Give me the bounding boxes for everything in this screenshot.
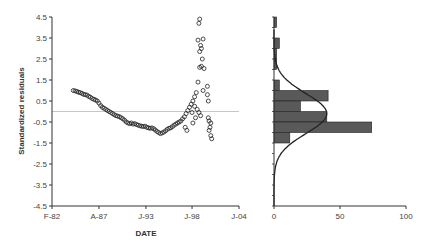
data-point [206,99,210,103]
y-tick-label: -0.5 [33,118,47,127]
histogram-bar [274,91,328,102]
y-tick-label: -4.5 [33,202,47,211]
data-point [201,89,205,93]
histogram-bars [274,17,372,143]
data-point [194,116,198,120]
data-point [202,67,206,71]
data-point [205,93,209,97]
scatter-panel: 4.53.52.51.50.5-0.5-1.5-2.5-3.5-4.5 F-82… [17,13,247,238]
histogram-bar [274,122,372,133]
data-point [196,38,200,42]
data-point [191,121,195,125]
data-point [201,37,205,41]
y-axis-title: Standardized residuals [17,67,26,155]
data-point [200,57,204,61]
x-tick-label: A-87 [91,212,108,221]
y-tick-label: 4.5 [36,13,48,22]
histogram-bar [274,101,300,112]
x-tick-label: F-82 [44,212,61,221]
data-point [196,80,200,84]
histogram-x-ticks: 050100 [272,206,413,221]
data-point [191,99,195,103]
data-point [183,125,187,129]
data-point [205,84,209,88]
data-point [193,104,197,108]
y-tick-label: 3.5 [36,34,48,43]
data-point [194,91,198,95]
histogram-bar [274,133,290,144]
histogram-bar [274,80,279,91]
y-axis-ticks: 4.53.52.51.50.5-0.5-1.5-2.5-3.5-4.5 [33,13,52,211]
x-tick-label: J-04 [231,212,247,221]
residuals-chart: 4.53.52.51.50.5-0.5-1.5-2.5-3.5-4.5 F-82… [0,0,435,248]
y-tick-label: -2.5 [33,160,47,169]
data-point [193,95,197,99]
histogram-x-tick-label: 50 [336,212,345,221]
y-tick-label: -1.5 [33,139,47,148]
data-point [198,17,202,21]
histogram-panel: 050100 [272,17,413,221]
x-axis-ticks: F-82A-87J-93J-98J-04 [44,206,248,221]
y-tick-label: 2.5 [36,55,48,64]
y-tick-label: 0.5 [36,97,48,106]
y-tick-label: -3.5 [33,181,47,190]
histogram-x-tick-label: 0 [272,212,277,221]
figure: 4.53.52.51.50.5-0.5-1.5-2.5-3.5-4.5 F-82… [0,0,435,248]
data-point [197,21,201,25]
x-tick-label: J-93 [138,212,154,221]
x-axis-title: DATE [135,229,157,238]
scatter-points [71,17,213,141]
y-tick-label: 1.5 [36,76,48,85]
x-tick-label: J-98 [184,212,200,221]
histogram-bar [274,112,327,123]
histogram-x-tick-label: 100 [399,212,413,221]
